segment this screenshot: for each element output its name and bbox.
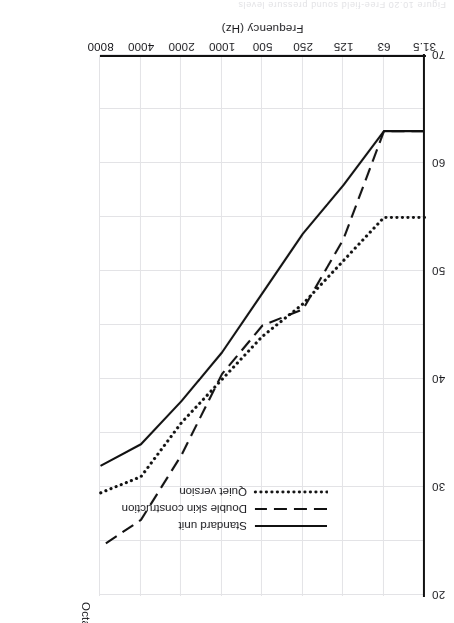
y-axis-tick-label: 40 — [432, 374, 445, 386]
x-axis-tick-label: 31.5 — [413, 41, 436, 53]
legend-item: Double skin construction — [100, 501, 328, 518]
legend-swatch-dashed — [254, 504, 328, 516]
y-axis-title-main: Octave band sound pressure level, dB ref… — [80, 602, 92, 623]
y-axis-title: Octave band sound pressure level, dB ref… — [78, 596, 100, 623]
x-axis-tick-label: 4000 — [128, 41, 154, 53]
legend-item: Quiet version — [100, 484, 328, 501]
legend-swatch-dotted — [254, 487, 328, 499]
legend-label: Quiet version — [179, 487, 247, 499]
legend-swatch-solid — [254, 521, 328, 533]
legend-label: Double skin construction — [122, 504, 247, 516]
page-bleed-text: Figure 10.20 Free-field sound pressure l… — [6, 0, 446, 10]
legend: Standard unitDouble skin constructionQui… — [100, 484, 328, 535]
legend-label: Standard unit — [179, 521, 247, 533]
x-axis-tick-labels: 31.5631252505001000200040008000 — [100, 35, 425, 55]
x-axis-tick-label: 8000 — [87, 41, 113, 53]
x-axis-tick-label: 2000 — [168, 41, 194, 53]
y-axis-tick-label: 50 — [432, 266, 445, 278]
x-axis-tick-label: 125 — [334, 41, 354, 53]
x-axis-tick-label: 250 — [293, 41, 313, 53]
x-axis-tick-label: 63 — [377, 41, 390, 53]
y-axis-tick-label: 20 — [432, 590, 445, 602]
series-line-quiet-version — [101, 218, 425, 493]
x-axis-tick-label: 1000 — [209, 41, 235, 53]
rotated-figure: Figure 10.20 Free-field sound pressure l… — [0, 0, 454, 623]
y-axis-tick-labels: 203040506070 — [428, 55, 454, 596]
x-axis-title: Frequency (Hz) — [100, 23, 425, 35]
series-line-standard-unit — [101, 131, 425, 466]
legend-item: Standard unit — [100, 518, 328, 535]
y-axis-tick-label: 60 — [432, 158, 445, 170]
y-axis-tick-label: 30 — [432, 482, 445, 494]
x-axis-tick-label: 500 — [253, 41, 273, 53]
